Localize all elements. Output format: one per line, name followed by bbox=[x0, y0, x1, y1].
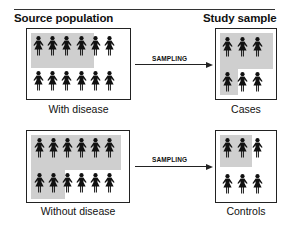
female-person-icon bbox=[33, 71, 44, 91]
female-person-icon bbox=[237, 174, 248, 194]
study-sample-heading: Study sample bbox=[203, 12, 277, 24]
arrow-head-icon bbox=[206, 62, 213, 68]
female-person-icon bbox=[34, 173, 45, 193]
female-person-icon bbox=[76, 138, 87, 158]
female-person-icon bbox=[252, 138, 263, 158]
sampling-label: SAMPLING bbox=[152, 55, 187, 62]
female-person-icon bbox=[48, 138, 59, 158]
sampling-label-2: SAMPLING bbox=[152, 156, 187, 163]
female-person-icon bbox=[90, 36, 101, 56]
female-person-icon bbox=[90, 71, 101, 91]
female-person-icon bbox=[34, 138, 45, 158]
female-person-icon bbox=[237, 138, 248, 158]
female-person-icon bbox=[104, 138, 115, 158]
female-person-icon bbox=[104, 36, 115, 56]
right-arrow-icon bbox=[135, 64, 207, 65]
female-person-icon bbox=[252, 174, 263, 194]
female-person-icon bbox=[62, 173, 73, 193]
with-disease-caption: With disease bbox=[26, 103, 131, 115]
female-person-icon bbox=[47, 36, 58, 56]
female-person-icon bbox=[237, 37, 248, 57]
right-arrow-icon-2 bbox=[135, 166, 207, 167]
controls-caption: Controls bbox=[215, 205, 277, 217]
without-disease-caption: Without disease bbox=[22, 205, 134, 217]
female-person-icon bbox=[252, 72, 263, 92]
female-person-icon bbox=[222, 37, 233, 57]
female-person-icon bbox=[104, 173, 115, 193]
female-person-icon bbox=[90, 138, 101, 158]
female-person-icon bbox=[47, 71, 58, 91]
top-rule bbox=[14, 9, 275, 10]
female-person-icon bbox=[237, 72, 248, 92]
female-person-icon bbox=[76, 71, 87, 91]
arrow-head-icon-2 bbox=[206, 164, 213, 170]
female-person-icon bbox=[76, 36, 87, 56]
female-person-icon bbox=[90, 173, 101, 193]
female-person-icon bbox=[76, 173, 87, 193]
female-person-icon bbox=[222, 174, 233, 194]
female-person-icon bbox=[33, 36, 44, 56]
female-person-icon bbox=[62, 138, 73, 158]
female-person-icon bbox=[61, 71, 72, 91]
female-person-icon bbox=[252, 37, 263, 57]
source-population-heading: Source population bbox=[14, 12, 113, 24]
female-person-icon bbox=[61, 36, 72, 56]
female-person-icon bbox=[104, 71, 115, 91]
female-person-icon bbox=[48, 173, 59, 193]
female-person-icon bbox=[222, 72, 233, 92]
cases-caption: Cases bbox=[215, 103, 277, 115]
female-person-icon bbox=[222, 138, 233, 158]
